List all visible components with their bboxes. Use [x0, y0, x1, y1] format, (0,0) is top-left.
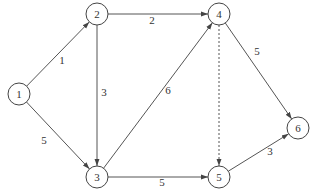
node-2: 2: [86, 3, 108, 25]
node-label: 4: [216, 8, 222, 20]
edge-4-6: [225, 23, 291, 119]
node-4: 4: [208, 3, 230, 25]
edge-weight-1-3: 5: [41, 134, 47, 146]
node-label: 6: [295, 122, 301, 134]
node-label: 1: [16, 88, 22, 100]
edge-weight-1-2: 1: [59, 54, 65, 66]
edge-weight-4-6: 5: [254, 45, 260, 57]
edge-1-3: [27, 102, 90, 169]
node-5: 5: [208, 166, 230, 188]
node-label: 5: [216, 171, 222, 183]
node-label: 2: [94, 8, 100, 20]
edge-labels-group: 15236553: [41, 14, 273, 188]
node-3: 3: [86, 166, 108, 188]
edge-1-2: [27, 22, 90, 86]
network-diagram: 15236553 123456: [0, 0, 311, 196]
edge-weight-3-4: 6: [165, 84, 171, 96]
edge-weight-3-5: 5: [159, 176, 165, 188]
edge-weight-5-6: 3: [267, 145, 273, 157]
node-6: 6: [287, 117, 309, 139]
edge-3-4: [104, 23, 213, 168]
edge-weight-2-4: 2: [149, 14, 155, 26]
edge-weight-2-3: 3: [101, 86, 107, 98]
edge-5-6: [228, 134, 288, 171]
node-label: 3: [94, 171, 100, 183]
edges-group: [27, 14, 292, 177]
figure-caption-cutoff: [110, 189, 220, 196]
node-1: 1: [8, 83, 30, 105]
